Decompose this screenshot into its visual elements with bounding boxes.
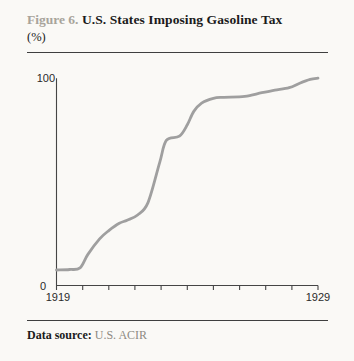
x-axis-start-label: 1919	[43, 291, 73, 303]
axis-lines	[57, 78, 319, 285]
x-axis-ticks	[57, 286, 319, 291]
footer-divider	[27, 320, 328, 321]
gasoline-tax-trend-line	[57, 78, 319, 270]
source-label: Data source:	[27, 328, 92, 342]
source-line: Data source: U.S. ACIR	[27, 328, 328, 342]
line-chart	[0, 0, 354, 361]
source-value: U.S. ACIR	[95, 328, 147, 342]
x-axis-end-label: 1929	[301, 291, 335, 303]
figure-card: Figure 6. U.S. States Imposing Gasoline …	[0, 0, 354, 361]
y-axis-max-label: 100	[28, 72, 55, 84]
